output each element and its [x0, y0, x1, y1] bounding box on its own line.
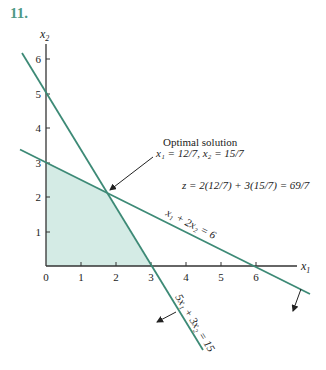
- y-tick-5: 5: [36, 88, 42, 100]
- y-tick-2: 2: [36, 191, 42, 203]
- objective-value: z = 2(12/7) + 3(15/7) = 69/7: [181, 179, 310, 192]
- constraint-1-direction-arrow: [293, 289, 301, 311]
- constraint-2-direction-arrow: [157, 312, 176, 322]
- x-tick-1: 1: [78, 271, 84, 283]
- x-tick-2: 2: [113, 271, 119, 283]
- x-tick-4: 4: [183, 271, 189, 283]
- lp-graph: 0 1 2 3 4 5 6 1 2 3 4 5 6 x2 x1 Optimal …: [0, 0, 326, 370]
- x-tick-5: 5: [218, 271, 224, 283]
- y-axis-label: x2: [39, 27, 49, 43]
- y-tick-4: 4: [36, 122, 42, 134]
- constraint-2-label: 5x₁ + 3x₂ = 15: [173, 292, 218, 354]
- optimal-solution-values: x₁ = 12/7, x₂ = 15/7: [155, 147, 244, 159]
- x-tick-labels: 0 1 2 3 4 5 6: [43, 271, 259, 283]
- optimal-pointer-arrow: [110, 157, 153, 190]
- x-axis-label: x1: [300, 259, 310, 275]
- x-tick-6: 6: [253, 271, 259, 283]
- constraint-1-label: x₁ + 2x₂ = 6: [163, 206, 218, 242]
- x-tick-0: 0: [43, 271, 49, 283]
- x-tick-3: 3: [148, 271, 154, 283]
- y-tick-1: 1: [36, 226, 42, 238]
- y-tick-6: 6: [36, 53, 42, 65]
